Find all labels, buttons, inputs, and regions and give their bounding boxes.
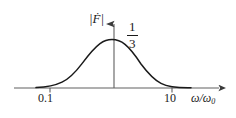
fraction-denominator: 3	[127, 36, 138, 51]
x-tick-label-high: 10	[164, 92, 176, 104]
y-axis-label: |Ḟ|	[89, 12, 104, 25]
fraction-numerator: 1	[127, 20, 138, 36]
x-tick-label-low: 0.1	[38, 92, 53, 104]
y-axis-label-text: |Ḟ|	[89, 11, 104, 26]
fraction-one-third: 1 3	[127, 20, 138, 50]
x-axis-label: ω/ω0	[191, 92, 215, 106]
peak-value-annotation: 1 3	[127, 20, 138, 50]
resonance-curve-figure: |Ḟ| 1 3 0.1 10 ω/ω0	[0, 0, 236, 118]
x-axis-label-subscript: 0	[211, 97, 215, 106]
